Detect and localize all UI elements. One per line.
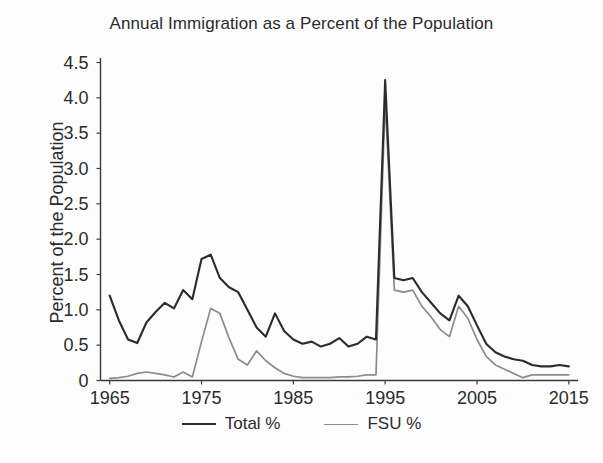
y-tick-label: 2.0	[43, 230, 89, 248]
y-tick-label: 1.0	[43, 301, 89, 319]
x-tick-label: 1965	[75, 389, 145, 407]
y-tick-label: 4.5	[43, 54, 89, 72]
data-series-layer	[110, 80, 569, 378]
y-tick-label: 0	[43, 372, 89, 390]
legend-label-fsu: FSU %	[367, 414, 421, 434]
chart-figure: Annual Immigration as a Percent of the P…	[0, 0, 603, 463]
legend-entry-fsu: FSU %	[324, 414, 421, 434]
chart-legend: Total % FSU %	[0, 414, 603, 434]
y-tick-label: 2.5	[43, 195, 89, 213]
legend-line-swatch-fsu	[324, 424, 358, 425]
y-tick-label: 3.5	[43, 124, 89, 142]
legend-line-swatch-total	[182, 423, 216, 425]
y-tick-label: 3.0	[43, 160, 89, 178]
x-tick-label: 1985	[258, 389, 328, 407]
x-tick-label: 1975	[167, 389, 237, 407]
legend-label-total: Total %	[225, 414, 281, 434]
axis-lines	[101, 58, 579, 381]
x-tick-label: 2015	[534, 389, 603, 407]
legend-entry-total: Total %	[182, 414, 281, 434]
y-tick-label: 4.0	[43, 89, 89, 107]
series-line-fsu	[110, 101, 569, 378]
series-line-total	[110, 80, 569, 366]
y-tick-label: 0.5	[43, 336, 89, 354]
y-tick-label: 1.5	[43, 266, 89, 284]
x-tick-label: 2005	[442, 389, 512, 407]
x-tick-label: 1995	[350, 389, 420, 407]
